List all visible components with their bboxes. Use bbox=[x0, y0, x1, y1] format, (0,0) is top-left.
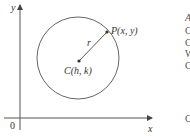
clipped-text-7: C bbox=[185, 114, 190, 124]
point-p bbox=[105, 30, 108, 33]
y-axis-label: y bbox=[11, 3, 15, 13]
clipped-text-3: C bbox=[185, 38, 190, 48]
clipped-text-2: C bbox=[185, 26, 190, 36]
origin-label: 0 bbox=[10, 121, 15, 131]
center-label: C(h, k) bbox=[64, 66, 92, 76]
circle bbox=[37, 17, 119, 99]
center-point bbox=[77, 59, 80, 62]
x-axis-label: x bbox=[148, 124, 152, 134]
clipped-text-5: C bbox=[185, 61, 190, 71]
circle-diagram bbox=[0, 0, 190, 136]
radius-label: r bbox=[87, 38, 91, 48]
clipped-text-1: A bbox=[185, 13, 190, 23]
radius-line bbox=[79, 32, 107, 61]
clipped-text-4: W bbox=[185, 49, 190, 59]
point-label: P(x, y) bbox=[111, 26, 138, 36]
